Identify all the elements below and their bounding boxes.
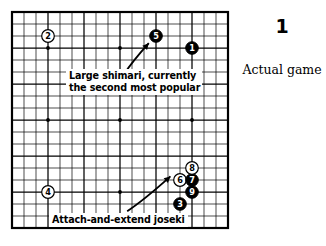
go-stone-8[interactable]: 8 [186, 162, 199, 175]
go-stone-label: 7 [189, 175, 195, 185]
star-point [118, 190, 122, 194]
star-point [190, 118, 194, 122]
annotation-shimari-line1: Large shimari, currently [69, 70, 200, 82]
star-point [46, 46, 50, 50]
go-stone-7[interactable]: 7 [186, 174, 199, 187]
star-point [118, 46, 122, 50]
annotation-shimari: Large shimari, currently the second most… [66, 69, 202, 95]
go-board-svg[interactable]: 123456789 [6, 6, 236, 236]
go-stone-label: 6 [177, 175, 183, 185]
go-stone-1[interactable]: 1 [186, 42, 199, 55]
go-stone-label: 8 [189, 163, 195, 173]
go-stone-label: 5 [153, 31, 159, 41]
star-point [46, 118, 50, 122]
go-stone-6[interactable]: 6 [174, 174, 187, 187]
go-stone-5[interactable]: 5 [150, 30, 163, 43]
star-point [118, 118, 122, 122]
go-stone-label: 1 [189, 43, 195, 53]
go-stone-label: 9 [189, 187, 195, 197]
figure-caption: Actual game [238, 62, 326, 77]
go-stone-4[interactable]: 4 [42, 186, 55, 199]
go-board[interactable]: 123456789 Large shimari, currently the s… [6, 6, 236, 236]
annotation-joseki: Attach-and-extend joseki [49, 213, 188, 227]
figure-number: 1 [238, 16, 326, 36]
figure-side-column: 1 Actual game [238, 0, 326, 246]
go-stone-label: 2 [45, 31, 51, 41]
go-stone-label: 3 [177, 199, 183, 209]
go-stone-9[interactable]: 9 [186, 186, 199, 199]
go-stone-label: 4 [45, 187, 51, 197]
go-diagram-figure: 123456789 Large shimari, currently the s… [0, 0, 326, 246]
go-stone-2[interactable]: 2 [42, 30, 55, 43]
go-stone-3[interactable]: 3 [174, 198, 187, 211]
annotation-shimari-line2: the second most popular [69, 82, 200, 94]
